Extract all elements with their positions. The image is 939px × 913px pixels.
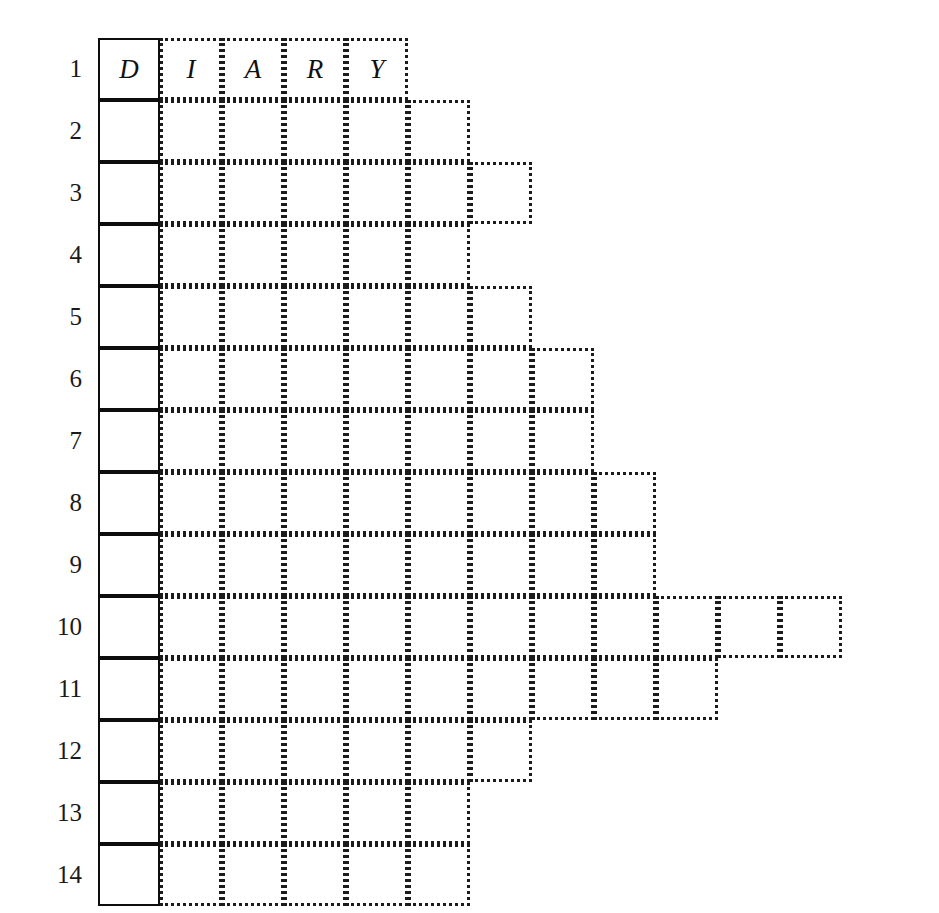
key-cell-row-5[interactable] — [98, 286, 160, 348]
key-cell-row-7[interactable] — [98, 410, 160, 472]
answer-cell[interactable] — [222, 720, 284, 782]
answer-cell[interactable] — [284, 100, 346, 162]
answer-cell[interactable] — [470, 720, 532, 782]
answer-cell[interactable] — [470, 534, 532, 596]
answer-cell[interactable] — [346, 286, 408, 348]
answer-cell[interactable] — [160, 844, 222, 906]
answer-cell[interactable] — [594, 658, 656, 720]
answer-cell[interactable] — [346, 596, 408, 658]
answer-cell[interactable] — [408, 100, 470, 162]
answer-cell[interactable] — [160, 658, 222, 720]
answer-cell[interactable] — [346, 348, 408, 410]
answer-cell[interactable] — [160, 472, 222, 534]
answer-cell[interactable]: R — [284, 38, 346, 100]
answer-cell[interactable] — [470, 658, 532, 720]
answer-cell[interactable] — [470, 348, 532, 410]
answer-cell[interactable] — [284, 472, 346, 534]
answer-cell[interactable] — [222, 286, 284, 348]
answer-cell[interactable] — [284, 162, 346, 224]
answer-cell[interactable] — [346, 224, 408, 286]
answer-cell[interactable] — [284, 286, 346, 348]
key-cell-row-4[interactable] — [98, 224, 160, 286]
answer-cell[interactable] — [222, 782, 284, 844]
answer-cell[interactable] — [532, 472, 594, 534]
key-cell-row-13[interactable] — [98, 782, 160, 844]
answer-cell[interactable] — [284, 720, 346, 782]
answer-cell[interactable] — [222, 472, 284, 534]
key-cell-row-12[interactable] — [98, 720, 160, 782]
answer-cell[interactable] — [284, 596, 346, 658]
answer-cell[interactable] — [346, 162, 408, 224]
answer-cell[interactable] — [222, 596, 284, 658]
key-cell-row-9[interactable] — [98, 534, 160, 596]
answer-cell[interactable] — [346, 472, 408, 534]
answer-cell[interactable] — [222, 534, 284, 596]
answer-cell[interactable] — [470, 286, 532, 348]
answer-cell[interactable] — [222, 224, 284, 286]
answer-cell[interactable] — [222, 100, 284, 162]
key-cell-row-3[interactable] — [98, 162, 160, 224]
answer-cell[interactable] — [594, 472, 656, 534]
answer-cell[interactable] — [470, 410, 532, 472]
answer-cell[interactable] — [160, 224, 222, 286]
answer-cell[interactable] — [222, 348, 284, 410]
answer-cell[interactable] — [408, 534, 470, 596]
answer-cell[interactable] — [780, 596, 842, 658]
answer-cell[interactable]: I — [160, 38, 222, 100]
answer-cell[interactable] — [408, 162, 470, 224]
answer-cell[interactable] — [284, 534, 346, 596]
answer-cell[interactable] — [160, 782, 222, 844]
answer-cell[interactable] — [408, 472, 470, 534]
answer-cell[interactable] — [718, 596, 780, 658]
answer-cell[interactable] — [346, 100, 408, 162]
answer-cell[interactable] — [346, 534, 408, 596]
key-cell-row-10[interactable] — [98, 596, 160, 658]
answer-cell[interactable] — [470, 596, 532, 658]
answer-cell[interactable] — [656, 596, 718, 658]
answer-cell[interactable] — [222, 658, 284, 720]
answer-cell[interactable] — [160, 410, 222, 472]
answer-cell[interactable] — [408, 348, 470, 410]
key-cell-row-1[interactable]: D — [98, 38, 160, 100]
answer-cell[interactable] — [470, 472, 532, 534]
answer-cell[interactable] — [408, 720, 470, 782]
answer-cell[interactable] — [284, 844, 346, 906]
answer-cell[interactable] — [532, 534, 594, 596]
answer-cell[interactable] — [284, 782, 346, 844]
answer-cell[interactable] — [408, 844, 470, 906]
answer-cell[interactable] — [408, 224, 470, 286]
answer-cell[interactable] — [222, 844, 284, 906]
answer-cell[interactable] — [284, 224, 346, 286]
answer-cell[interactable] — [346, 410, 408, 472]
answer-cell[interactable] — [346, 658, 408, 720]
answer-cell[interactable] — [408, 782, 470, 844]
answer-cell[interactable] — [532, 410, 594, 472]
answer-cell[interactable]: A — [222, 38, 284, 100]
answer-cell[interactable] — [346, 844, 408, 906]
answer-cell[interactable] — [160, 348, 222, 410]
answer-cell[interactable] — [160, 596, 222, 658]
answer-cell[interactable] — [408, 410, 470, 472]
answer-cell[interactable] — [160, 534, 222, 596]
answer-cell[interactable] — [346, 720, 408, 782]
answer-cell[interactable] — [160, 162, 222, 224]
answer-cell[interactable] — [160, 100, 222, 162]
answer-cell[interactable] — [408, 596, 470, 658]
answer-cell[interactable] — [284, 410, 346, 472]
answer-cell[interactable] — [222, 410, 284, 472]
answer-cell[interactable] — [408, 286, 470, 348]
answer-cell[interactable] — [284, 658, 346, 720]
answer-cell[interactable] — [594, 596, 656, 658]
answer-cell[interactable] — [222, 162, 284, 224]
key-cell-row-6[interactable] — [98, 348, 160, 410]
answer-cell[interactable] — [160, 286, 222, 348]
answer-cell[interactable] — [532, 596, 594, 658]
key-cell-row-8[interactable] — [98, 472, 160, 534]
key-cell-row-11[interactable] — [98, 658, 160, 720]
answer-cell[interactable] — [408, 658, 470, 720]
answer-cell[interactable] — [160, 720, 222, 782]
answer-cell[interactable] — [284, 348, 346, 410]
answer-cell[interactable] — [532, 348, 594, 410]
key-cell-row-2[interactable] — [98, 100, 160, 162]
answer-cell[interactable] — [470, 162, 532, 224]
